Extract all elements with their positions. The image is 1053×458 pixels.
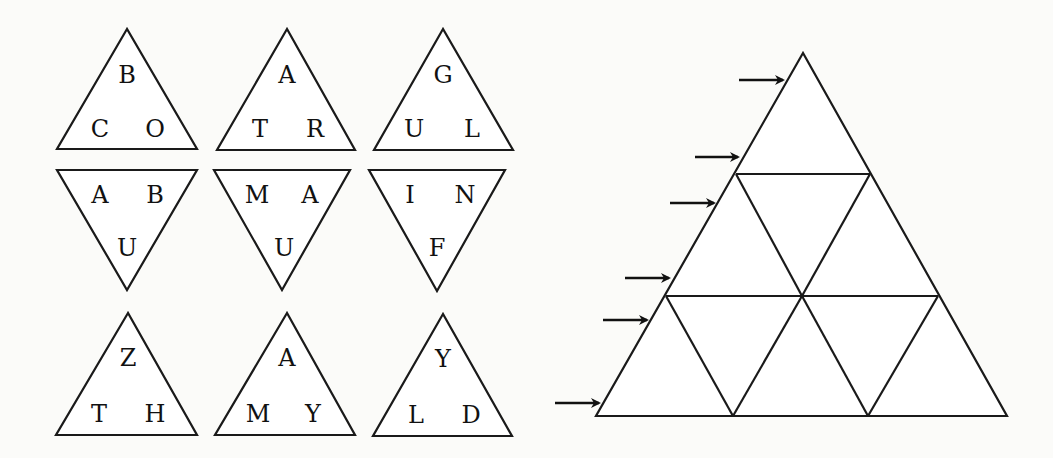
- piece-6-left-letter: I: [405, 181, 414, 209]
- piece-1[interactable]: B C O: [57, 29, 197, 149]
- piece-6[interactable]: I N F: [369, 170, 505, 291]
- piece-9-left-letter: L: [408, 401, 424, 429]
- piece-2[interactable]: A T R: [217, 29, 355, 150]
- piece-7-left-letter: T: [91, 400, 107, 428]
- piece-2-left-letter: T: [252, 115, 268, 143]
- puzzle-canvas: B C O A T R G U L A B U M A U I N F Z T …: [0, 0, 1053, 458]
- piece-1-right-letter: O: [145, 115, 165, 143]
- piece-2-top-letter: A: [277, 61, 296, 89]
- piece-7[interactable]: Z T H: [56, 313, 197, 435]
- piece-5-right-letter: A: [300, 181, 319, 209]
- piece-8-left-letter: M: [246, 400, 271, 428]
- piece-1-left-letter: C: [91, 115, 109, 143]
- piece-9-right-letter: D: [461, 401, 480, 429]
- board-outline: [596, 53, 1007, 416]
- piece-8-top-letter: A: [277, 344, 296, 372]
- piece-2-right-letter: R: [306, 115, 325, 143]
- piece-7-right-letter: H: [145, 400, 166, 428]
- piece-3-right-letter: L: [464, 115, 480, 143]
- piece-1-top-letter: B: [118, 61, 136, 89]
- piece-7-top-letter: Z: [120, 344, 137, 372]
- piece-3[interactable]: G U L: [374, 29, 513, 150]
- piece-5[interactable]: M A U: [214, 170, 350, 290]
- piece-6-right-letter: N: [455, 181, 476, 209]
- piece-8[interactable]: A M Y: [215, 313, 355, 435]
- piece-5-bottom-letter: U: [274, 234, 294, 262]
- piece-4-left-letter: A: [90, 181, 109, 209]
- board-triangle: [596, 53, 1007, 416]
- piece-3-top-letter: G: [433, 61, 452, 89]
- piece-9-top-letter: Y: [434, 345, 452, 373]
- piece-4[interactable]: A B U: [57, 170, 197, 290]
- piece-3-left-letter: U: [404, 115, 424, 143]
- piece-6-bottom-letter: F: [429, 234, 446, 262]
- piece-8-right-letter: Y: [304, 400, 322, 428]
- piece-4-bottom-letter: U: [117, 234, 137, 262]
- piece-9[interactable]: Y L D: [373, 314, 512, 436]
- piece-5-left-letter: M: [245, 181, 270, 209]
- piece-4-right-letter: B: [146, 181, 164, 209]
